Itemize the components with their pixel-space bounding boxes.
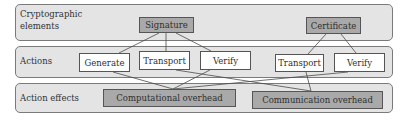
layer-label-actions: Actions — [20, 56, 52, 66]
action-signature-transport: Transport — [139, 51, 190, 70]
layer-label-action-effects: Action effects — [20, 93, 79, 103]
layer-label-cryptographic-elements-line2: elements — [20, 21, 59, 31]
element-signature: Signature — [139, 17, 194, 33]
action-signature-verify: Verify — [200, 51, 251, 70]
layer-label-cryptographic-elements-line1: Cryptographic — [20, 9, 82, 19]
effect-communication-overhead: Communication overhead — [252, 91, 383, 109]
element-certificate: Certificate — [306, 17, 361, 34]
effect-computational-overhead: Computational overhead — [103, 89, 236, 107]
action-signature-generate: Generate — [79, 53, 130, 72]
action-certificate-transport: Transport — [275, 54, 324, 72]
action-certificate-verify: Verify — [334, 53, 385, 72]
